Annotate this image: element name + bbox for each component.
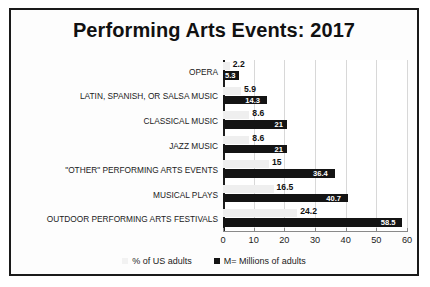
bar-group: 8.621 <box>223 109 407 134</box>
legend-item-millions: M= Millions of adults <box>214 256 306 266</box>
category-label: OUTDOOR PERFORMING ARTS FESTIVALS <box>25 207 218 232</box>
bar-row: JAZZ MUSIC8.621 <box>25 134 407 159</box>
bar-label-percent: 24.2 <box>300 206 317 216</box>
gridline <box>407 60 408 232</box>
bar-percent <box>223 185 274 193</box>
x-tick-label: 40 <box>341 235 351 245</box>
x-tick-label: 60 <box>402 235 412 245</box>
x-tick-label: 0 <box>220 235 225 245</box>
x-tick-label: 50 <box>371 235 381 245</box>
bar-label-millions: 36.4 <box>313 169 328 178</box>
x-tick-mark <box>346 228 347 232</box>
chart-title: Performing Arts Events: 2017 <box>11 19 417 42</box>
legend-swatch-millions-icon <box>214 258 220 264</box>
category-label: LATIN, SPANISH, OR SALSA MUSIC <box>25 85 218 110</box>
legend-label-percent: % of US adults <box>132 256 192 266</box>
x-tick-mark <box>315 228 316 232</box>
bar-label-percent: 5.9 <box>244 84 256 94</box>
bar-label-percent: 2.2 <box>233 59 245 69</box>
bar-group: 2.25.3 <box>223 60 407 85</box>
bar-percent <box>223 87 241 95</box>
x-tick-mark <box>376 228 377 232</box>
bar-label-millions: 58.5 <box>381 218 396 227</box>
bar-row: "OTHER" PERFORMING ARTS EVENTS1536.4 <box>25 158 407 183</box>
bar-row: OUTDOOR PERFORMING ARTS FESTIVALS24.258.… <box>25 207 407 232</box>
category-label: MUSICAL PLAYS <box>25 183 218 208</box>
bar-label-millions: 21 <box>275 120 283 129</box>
bar-row: LATIN, SPANISH, OR SALSA MUSIC5.914.3 <box>25 85 407 110</box>
bar-group: 1536.4 <box>223 158 407 183</box>
bar-millions <box>223 218 402 227</box>
bar-label-percent: 8.6 <box>252 133 264 143</box>
bar-percent <box>223 209 297 217</box>
bar-label-millions: 21 <box>275 145 283 154</box>
legend-swatch-percent-icon <box>122 258 128 264</box>
legend-item-percent: % of US adults <box>122 256 192 266</box>
bar-row: CLASSICAL MUSIC8.621 <box>25 109 407 134</box>
bar-group: 8.621 <box>223 134 407 159</box>
bar-label-millions: 40.7 <box>326 194 341 203</box>
bar-percent <box>223 62 230 70</box>
bar-label-percent: 16.5 <box>277 182 294 192</box>
x-axis-ticks: 0102030405060 <box>223 232 407 250</box>
chart-container: Performing Arts Events: 2017 OPERA2.25.3… <box>9 8 419 276</box>
bar-group: 5.914.3 <box>223 85 407 110</box>
x-tick-label: 20 <box>279 235 289 245</box>
x-tick-mark <box>407 228 408 232</box>
category-label: "OTHER" PERFORMING ARTS EVENTS <box>25 158 218 183</box>
bar-row: MUSICAL PLAYS16.540.7 <box>25 183 407 208</box>
bar-percent <box>223 160 269 168</box>
plot-wrapper: OPERA2.25.3LATIN, SPANISH, OR SALSA MUSI… <box>25 60 407 232</box>
bar-label-millions: 5.3 <box>225 71 236 80</box>
bar-percent <box>223 136 249 144</box>
bar-group: 16.540.7 <box>223 183 407 208</box>
x-tick-mark <box>284 228 285 232</box>
x-tick-mark <box>254 228 255 232</box>
chart-legend: % of US adults M= Millions of adults <box>11 256 417 266</box>
bar-label-percent: 15 <box>272 157 282 167</box>
x-tick-label: 30 <box>310 235 320 245</box>
category-label: OPERA <box>25 60 218 85</box>
category-label: CLASSICAL MUSIC <box>25 109 218 134</box>
bar-row: OPERA2.25.3 <box>25 60 407 85</box>
legend-label-millions: M= Millions of adults <box>224 256 306 266</box>
bar-label-percent: 8.6 <box>252 108 264 118</box>
x-tick-label: 10 <box>249 235 259 245</box>
bar-label-millions: 14.3 <box>245 96 260 105</box>
x-tick-mark <box>223 228 224 232</box>
category-label: JAZZ MUSIC <box>25 134 218 159</box>
bar-percent <box>223 111 249 119</box>
